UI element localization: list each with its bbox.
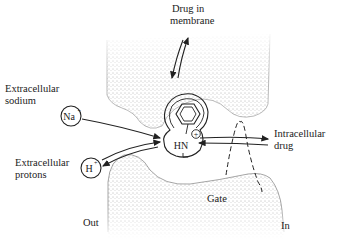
- label-out: Out: [83, 217, 99, 228]
- upper-channel-protein: [100, 30, 275, 128]
- svg-text:H: H: [85, 163, 92, 174]
- label-extracellular-sodium: Extracellular sodium: [5, 83, 60, 106]
- label-intracellular-drug: Intracellular drug: [274, 128, 326, 151]
- svg-text:Na: Na: [63, 111, 75, 122]
- svg-text:Extracellular: Extracellular: [5, 83, 60, 94]
- svg-text:Drug in: Drug in: [172, 3, 205, 14]
- lower-channel-protein: [104, 155, 289, 239]
- label-extracellular-protons: Extracellular protons: [15, 157, 70, 180]
- svg-text:sodium: sodium: [5, 95, 36, 106]
- svg-text:protons: protons: [15, 169, 47, 180]
- drug-amine-label: HN: [174, 140, 188, 151]
- benzene-ring-icon: [176, 104, 200, 124]
- intracellular-drug-arrows: [199, 137, 268, 145]
- label-gate: Gate: [207, 193, 227, 204]
- svg-text:Extracellular: Extracellular: [15, 157, 70, 168]
- sodium-channel-diagram: + HN Na + H + Drug in membrane Extracell…: [0, 0, 341, 239]
- drug-charge: +: [194, 130, 199, 139]
- label-drug-in-membrane: Drug in membrane: [170, 3, 215, 26]
- label-in: In: [281, 220, 290, 231]
- svg-text:membrane: membrane: [170, 15, 215, 26]
- svg-text:drug: drug: [274, 140, 294, 151]
- svg-text:Intracellular: Intracellular: [274, 128, 326, 139]
